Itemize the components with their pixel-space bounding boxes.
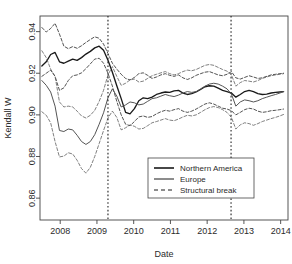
x-axis-title: Date	[154, 249, 173, 259]
legend-label: Northern America	[180, 164, 243, 173]
y-axis-ticks: 0.860.880.900.920.94	[27, 23, 40, 207]
chart-figure: 0.860.880.900.920.94 2008200920102011201…	[0, 0, 292, 264]
y-tick-label: 0.86	[27, 189, 37, 207]
legend-label: Structural break	[180, 186, 237, 195]
x-tick-label: 2014	[271, 226, 291, 236]
y-tick-label: 0.92	[27, 64, 37, 82]
series-line	[42, 51, 284, 118]
x-tick-label: 2012	[197, 226, 217, 236]
x-tick-label: 2013	[234, 226, 254, 236]
y-tick-label: 0.88	[27, 148, 37, 166]
y-tick-label: 0.94	[27, 23, 37, 41]
y-tick-label: 0.90	[27, 106, 37, 124]
x-tick-label: 2009	[87, 226, 107, 236]
chart-legend: Northern AmericaEuropeStructural break	[148, 158, 254, 198]
x-axis-ticks: 2008200920102011201220132014	[50, 220, 290, 236]
y-axis-title: Kendall W	[3, 97, 13, 139]
x-tick-label: 2008	[50, 226, 70, 236]
legend-label: Europe	[180, 175, 206, 184]
kendall-w-line-chart: 0.860.880.900.920.94 2008200920102011201…	[0, 0, 292, 264]
x-tick-label: 2010	[124, 226, 144, 236]
series-lines	[42, 23, 284, 173]
series-line	[42, 46, 284, 114]
x-tick-label: 2011	[161, 226, 180, 236]
series-line	[42, 23, 284, 80]
